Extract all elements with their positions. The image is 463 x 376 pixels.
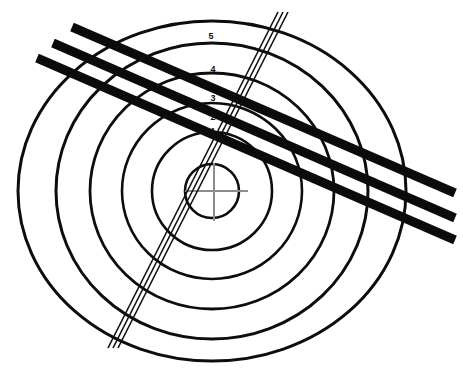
- ring-label-2: 2: [210, 112, 215, 122]
- ring-label-1: 1: [210, 126, 215, 136]
- ring-diagram-svg: Concentric range-ring target with overla…: [0, 0, 463, 376]
- diagram-canvas: Concentric range-ring target with overla…: [0, 0, 463, 376]
- ring-label-5: 5: [208, 31, 213, 41]
- ring-label-3: 3: [210, 93, 215, 103]
- ring-label-4: 4: [210, 64, 215, 74]
